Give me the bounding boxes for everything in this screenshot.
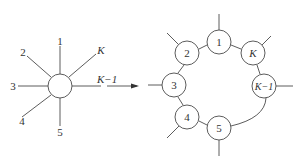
leg-label-1: 1: [57, 35, 63, 47]
arrow-head-icon: [131, 84, 139, 89]
leg-label-2: 2: [20, 46, 26, 58]
leg-label-k: K: [96, 44, 105, 56]
leg-label-3: 3: [10, 80, 16, 92]
ring-node-label-k-minus-1: K−1: [254, 81, 273, 92]
leg-label-5: 5: [57, 126, 63, 138]
edge-2-3: [178, 65, 184, 73]
edge-1-k: [231, 45, 241, 49]
right-ring-diagram: 1 2 3 4 5 K K−1: [148, 14, 293, 156]
diagram-canvas: 1 2 3 4 5 K K−1: [0, 0, 300, 166]
center-vertex: [48, 74, 72, 98]
edge-k-k-minus-1: [257, 65, 260, 74]
edge-5-k-minus-1: [231, 98, 266, 126]
ext-leg-k: [262, 36, 271, 45]
leg-label-4: 4: [19, 115, 25, 127]
leg-2-line: [27, 56, 51, 77]
leg-k-line: [69, 54, 96, 77]
ring-node-label-5: 5: [216, 122, 222, 134]
ring-node-label-1: 1: [216, 36, 222, 48]
ext-leg-4: [167, 126, 179, 138]
left-star-diagram: 1 2 3 4 5 K K−1: [10, 35, 117, 138]
leg-label-k-minus-1: K−1: [96, 73, 117, 85]
ring-node-label-4: 4: [184, 111, 190, 123]
ring-node-label-3: 3: [171, 79, 177, 91]
ring-node-label-k: K: [248, 47, 257, 59]
ext-leg-2: [167, 33, 179, 45]
edge-3-4: [178, 97, 183, 105]
leg-4-line: [22, 95, 51, 117]
ring-node-label-2: 2: [184, 47, 190, 59]
edge-1-2: [199, 45, 207, 49]
edge-4-5: [199, 121, 207, 125]
